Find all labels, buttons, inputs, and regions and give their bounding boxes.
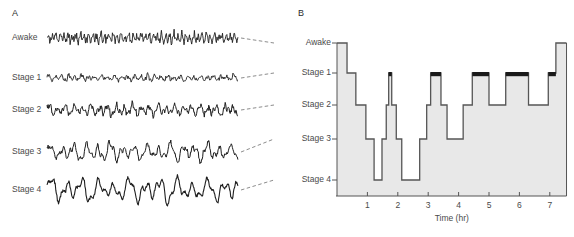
eeg-trace-awake [47,29,238,45]
rem-period-bar [506,72,529,76]
figure-graphics [0,0,574,237]
rem-period-bar [389,72,392,76]
connector-line-stage-4 [241,180,274,190]
rem-period-bar [472,72,489,76]
panel-connector-lines [241,38,274,190]
connector-line-awake [241,38,274,43]
connector-line-stage-1 [241,73,274,78]
eeg-trace-stage-4 [47,175,238,206]
eeg-trace-stage-1 [47,73,238,83]
eeg-trace-stage-2 [47,101,238,119]
rem-period-bar [431,72,441,76]
sleep-stages-figure: A B AwakeStage 1Stage 2Stage 3Stage 4 Aw… [0,0,574,237]
hypnogram-area-fill [337,43,567,196]
connector-line-stage-2 [241,105,274,110]
eeg-trace-stage-3 [47,140,238,164]
hypnogram-plot [332,43,567,196]
connector-line-stage-3 [241,139,274,152]
eeg-traces [47,29,238,206]
rem-period-bar [548,72,556,76]
